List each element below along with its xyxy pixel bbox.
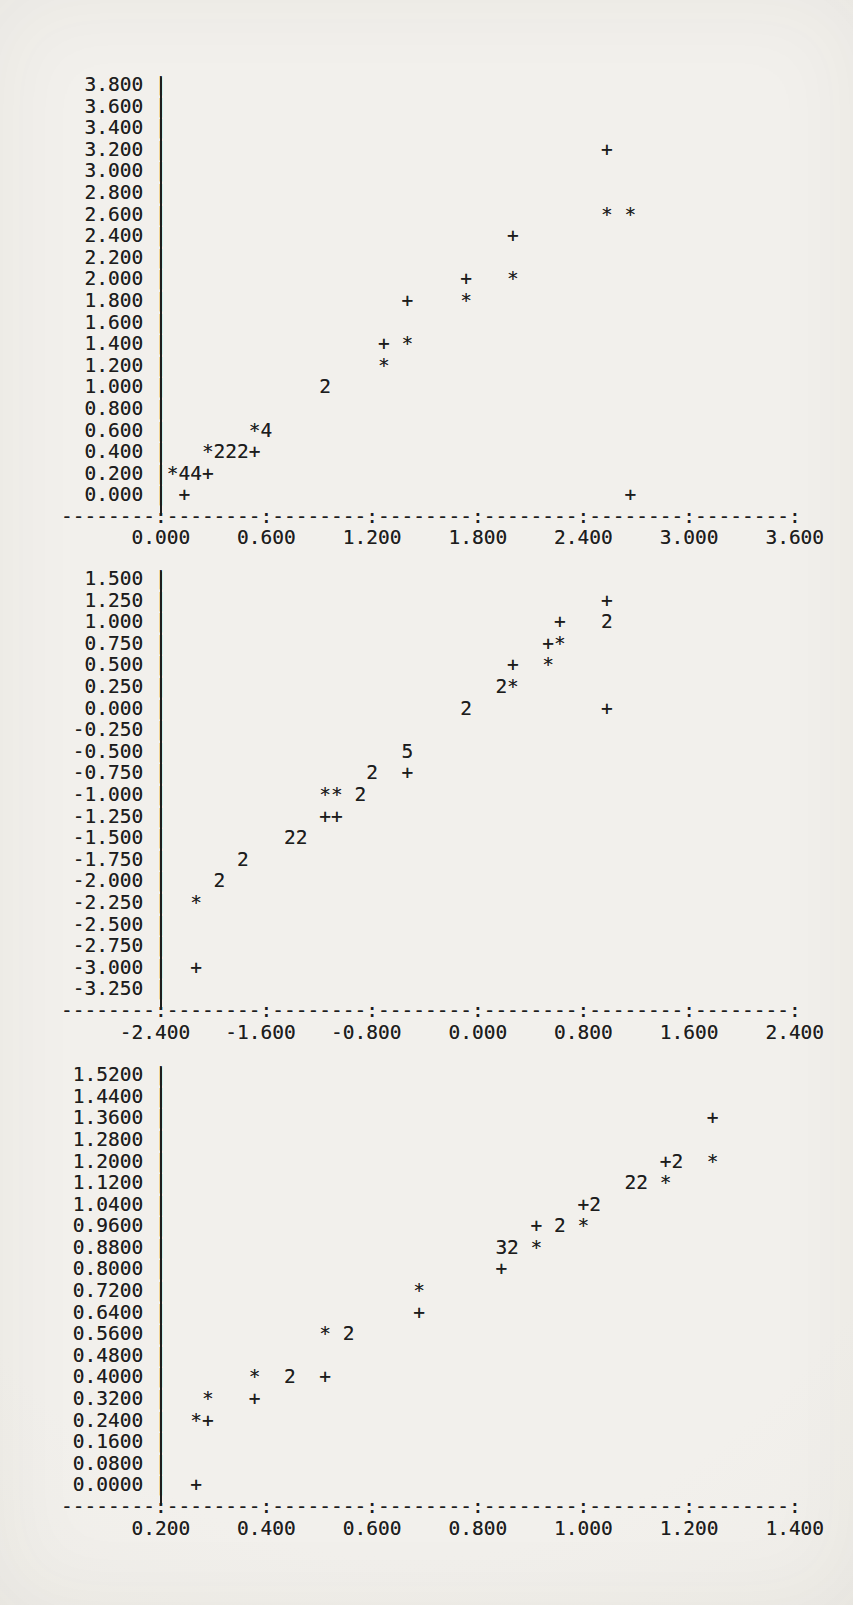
plot-1-character-grid: 3.800 | 3.600 | 3.400 | 3.200 | + 3.000 … xyxy=(61,74,853,549)
scatter-plot-1: 3.800 | 3.600 | 3.400 | 3.200 | + 3.000 … xyxy=(61,74,853,549)
plot-3-character-grid: 1.5200 | 1.4400 | 1.3600 | + 1.2800 | 1.… xyxy=(61,1064,853,1539)
plot-3-y-axis-line xyxy=(160,1067,162,1505)
plot-1-y-axis-line xyxy=(160,77,162,515)
scatter-plot-3: 1.5200 | 1.4400 | 1.3600 | + 1.2800 | 1.… xyxy=(61,1064,853,1539)
plot-2-y-axis-line xyxy=(160,571,162,1009)
plot-2-character-grid: 1.500 | 1.250 | + 1.000 | + 2 0.750 | +*… xyxy=(61,568,853,1043)
scanned-printout-page: 3.800 | 3.600 | 3.400 | 3.200 | + 3.000 … xyxy=(0,0,853,1605)
scatter-plot-2: 1.500 | 1.250 | + 1.000 | + 2 0.750 | +*… xyxy=(61,568,853,1043)
